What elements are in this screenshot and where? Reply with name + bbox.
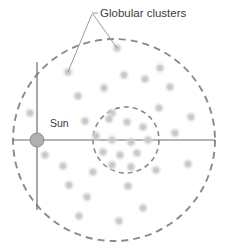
cluster-dot: [63, 179, 75, 191]
cluster-dot: [182, 158, 194, 170]
cluster-dot: [150, 164, 162, 176]
diagram-canvas: Globular clusters Sun: [0, 0, 229, 251]
cluster-dot: [154, 62, 166, 74]
cluster-dot-core: [140, 205, 145, 210]
sun-label: Sun: [50, 117, 69, 129]
cluster-dot: [113, 215, 125, 227]
cluster-dot-core: [109, 137, 114, 142]
cluster-dot: [72, 90, 84, 102]
cluster-dot-core: [100, 149, 105, 154]
globular-cluster-diagram: Globular clusters Sun: [0, 0, 229, 251]
cluster-dot: [121, 116, 133, 128]
cluster-dot-core: [101, 85, 106, 90]
cluster-dot: [73, 210, 85, 222]
cluster-dot-core: [134, 150, 139, 155]
cluster-dot: [90, 130, 102, 142]
cluster-dot: [164, 81, 176, 93]
cluster-dot: [106, 134, 118, 146]
cluster-dot-core: [124, 119, 129, 124]
cluster-dot: [81, 191, 93, 203]
cluster-dot-core: [125, 183, 130, 188]
globular-clusters-label: Globular clusters: [100, 7, 187, 19]
cluster-dot-core: [140, 124, 145, 129]
cluster-dot-core: [109, 162, 114, 167]
cluster-dot-core: [93, 133, 98, 138]
cluster-dot: [79, 115, 91, 127]
cluster-dot: [39, 149, 51, 161]
cluster-dot: [87, 166, 99, 178]
cluster-dot: [185, 111, 197, 123]
cluster-dot: [131, 147, 143, 159]
cluster-dot: [122, 180, 134, 192]
cluster-dot: [57, 160, 69, 172]
cluster-dot: [153, 102, 165, 114]
cluster-dot: [137, 202, 149, 214]
cluster-dot: [24, 107, 36, 119]
cluster-dot-core: [117, 152, 122, 157]
cluster-dot: [118, 69, 130, 81]
cluster-dot: [137, 121, 149, 133]
cluster-dot-core: [90, 169, 95, 174]
globular-cluster-dots: [24, 42, 197, 227]
cluster-dot-core: [156, 105, 161, 110]
label-leader-lines: [68, 13, 117, 72]
cluster-dot-core: [84, 194, 89, 199]
cluster-dot: [169, 127, 181, 139]
cluster-dot-core: [142, 76, 147, 81]
cluster-dot-core: [128, 164, 133, 169]
cluster-dot-core: [145, 137, 150, 142]
cluster-dot-core: [106, 116, 111, 121]
cluster-dot: [106, 159, 118, 171]
cluster-dot-core: [60, 163, 65, 168]
sun-marker: [30, 133, 44, 147]
cluster-dot-core: [172, 130, 177, 135]
cluster-dot: [98, 82, 110, 94]
cluster-dot-core: [121, 72, 126, 77]
cluster-dot-core: [185, 161, 190, 166]
cluster-dot-core: [167, 84, 172, 89]
cluster-dot-core: [82, 118, 87, 123]
cluster-dot-core: [27, 110, 32, 115]
cluster-dot-core: [76, 213, 81, 218]
cluster-dot-core: [116, 218, 121, 223]
cluster-dot-core: [153, 167, 158, 172]
cluster-dot-core: [157, 65, 162, 70]
leader-line-2: [93, 14, 117, 48]
cluster-dot: [114, 149, 126, 161]
cluster-dot-core: [66, 182, 71, 187]
cluster-dot-core: [188, 114, 193, 119]
cluster-dot-core: [75, 93, 80, 98]
cluster-dot: [125, 161, 137, 173]
cluster-dot: [97, 146, 109, 158]
cluster-dot: [125, 136, 137, 148]
sun-disc: [30, 133, 44, 147]
cluster-dot: [139, 73, 151, 85]
cluster-dot-core: [42, 152, 47, 157]
cluster-dot: [142, 134, 154, 146]
cluster-dot: [103, 113, 115, 125]
cluster-dot-core: [128, 139, 133, 144]
